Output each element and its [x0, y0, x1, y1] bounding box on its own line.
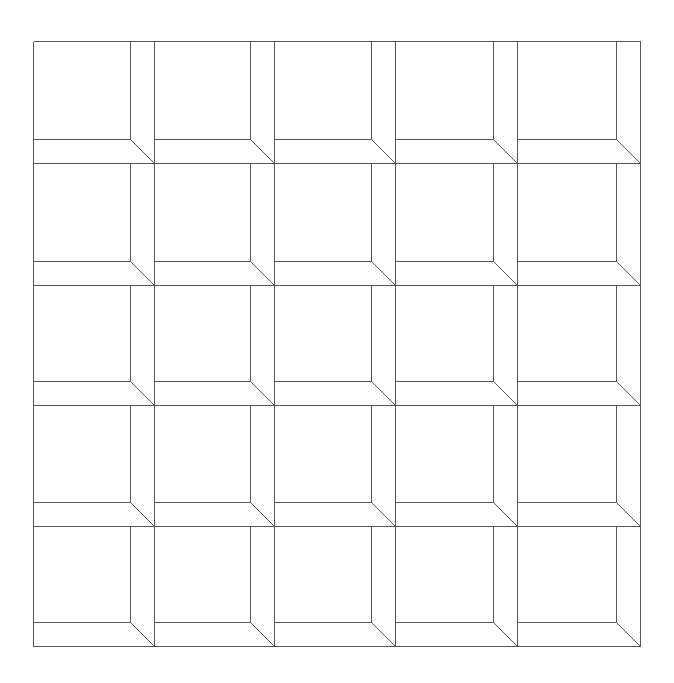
beveled-grid-diagram	[0, 0, 674, 683]
grid-cell	[155, 164, 275, 286]
grid-cell	[518, 164, 641, 286]
grid-cell	[396, 286, 518, 406]
bevel-diagonal	[617, 262, 641, 286]
bevel-diagonal	[617, 503, 641, 527]
bevel-diagonal	[372, 623, 396, 647]
grid-cell	[275, 406, 396, 527]
bevel-diagonal	[494, 382, 518, 406]
bevel-diagonal	[131, 503, 155, 527]
bevel-diagonal	[494, 623, 518, 647]
bevel-diagonal	[372, 140, 396, 164]
grid-cell	[275, 527, 396, 647]
bevel-diagonal	[131, 623, 155, 647]
grid-cell	[396, 527, 518, 647]
bevel-diagonal	[617, 382, 641, 406]
bevel-diagonal	[251, 140, 275, 164]
bevel-diagonal	[131, 382, 155, 406]
bevel-diagonal	[617, 140, 641, 164]
bevel-diagonal	[372, 503, 396, 527]
bevel-diagonal	[251, 382, 275, 406]
grid-cell	[34, 527, 155, 647]
grid-cell	[518, 42, 641, 164]
grid-cell	[275, 286, 396, 406]
grid-cell	[275, 164, 396, 286]
grid-cell	[396, 406, 518, 527]
grid-cell	[155, 286, 275, 406]
grid-cell	[155, 42, 275, 164]
grid-cells	[34, 42, 641, 647]
grid-cell	[396, 164, 518, 286]
grid-cell	[34, 42, 155, 164]
grid-cell	[275, 42, 396, 164]
bevel-diagonal	[494, 503, 518, 527]
grid-cell	[396, 42, 518, 164]
bevel-diagonal	[494, 262, 518, 286]
bevel-diagonal	[617, 623, 641, 647]
grid-cell	[34, 164, 155, 286]
bevel-diagonal	[494, 140, 518, 164]
bevel-diagonal	[131, 262, 155, 286]
bevel-diagonal	[131, 140, 155, 164]
grid-cell	[155, 527, 275, 647]
grid-cell	[518, 527, 641, 647]
bevel-diagonal	[372, 382, 396, 406]
bevel-diagonal	[251, 503, 275, 527]
grid-cell	[155, 406, 275, 527]
bevel-diagonal	[251, 623, 275, 647]
grid-cell	[518, 406, 641, 527]
grid-cell	[518, 286, 641, 406]
bevel-diagonal	[372, 262, 396, 286]
grid-cell	[34, 406, 155, 527]
grid-cell	[34, 286, 155, 406]
bevel-diagonal	[251, 262, 275, 286]
